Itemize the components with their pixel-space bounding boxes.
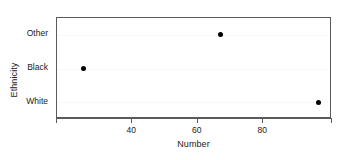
y-axis-tick-labels: OtherBlackWhite bbox=[0, 17, 56, 118]
gridline bbox=[57, 102, 330, 103]
x-axis-end-tick bbox=[331, 118, 332, 123]
gridline bbox=[57, 35, 330, 36]
x-axis: 406080 bbox=[56, 118, 331, 140]
data-point bbox=[81, 66, 86, 71]
y-axis-tick-label: White bbox=[0, 97, 48, 106]
dot-chart: Ethnicity OtherBlackWhite 406080 Number bbox=[0, 0, 345, 160]
x-axis-end-tick bbox=[56, 118, 57, 123]
x-axis-tick-label: 80 bbox=[247, 125, 277, 135]
x-axis-tick bbox=[131, 118, 132, 123]
x-axis-tick bbox=[197, 118, 198, 123]
x-axis-tick-label: 40 bbox=[116, 125, 146, 135]
x-axis-tick bbox=[262, 118, 263, 123]
data-point bbox=[218, 32, 223, 37]
x-axis-title: Number bbox=[56, 139, 331, 149]
plot-panel bbox=[56, 17, 331, 118]
gridline bbox=[57, 69, 330, 70]
x-axis-line bbox=[56, 118, 331, 119]
y-axis-tick-label: Black bbox=[0, 63, 48, 72]
y-axis-tick-label: Other bbox=[0, 29, 48, 38]
data-point bbox=[316, 100, 321, 105]
x-axis-tick-label: 60 bbox=[182, 125, 212, 135]
